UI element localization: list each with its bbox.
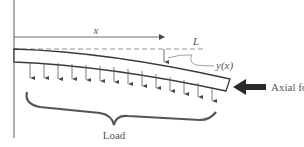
beam-diagram: x L y(x) Load Axial force [0,0,304,147]
load-label: Load [103,129,126,141]
L-label: L [192,35,199,47]
x-label: x [93,24,99,36]
deflection-leader-line [168,55,214,66]
load-brace [27,92,216,125]
axial-force-arrow [233,79,266,95]
axial-force-label: Axial force [271,81,304,93]
deflection-label: y(x) [215,59,233,72]
